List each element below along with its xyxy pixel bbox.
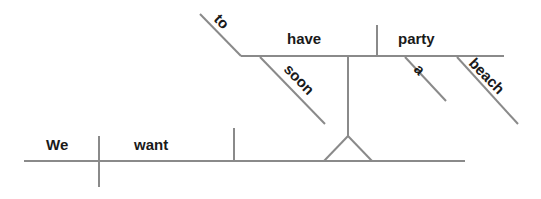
subject-word: We bbox=[46, 136, 68, 153]
pedestal-right-leg bbox=[348, 136, 372, 161]
infinitive-verb-word: have bbox=[287, 30, 321, 47]
sentence-diagram: We want have party to soon a beach bbox=[0, 0, 541, 199]
soon-word: soon bbox=[281, 60, 318, 98]
pedestal-left-leg bbox=[324, 136, 348, 161]
infinitive-object-word: party bbox=[398, 30, 435, 47]
verb-word: want bbox=[133, 136, 168, 153]
a-word: a bbox=[411, 60, 429, 78]
